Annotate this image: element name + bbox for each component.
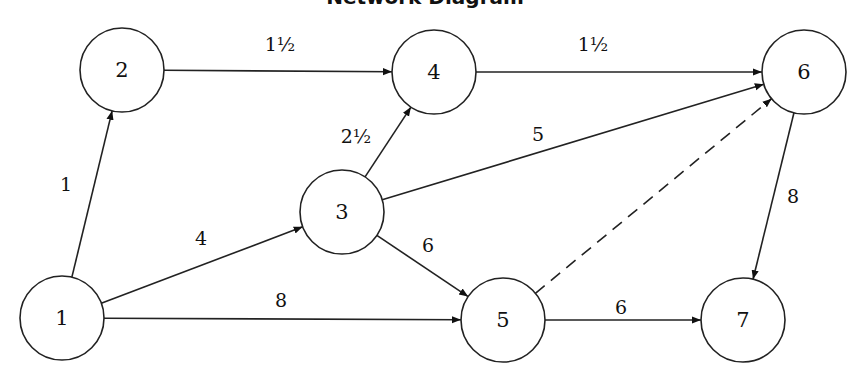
node-label: 5 [496,308,509,332]
node-1: 1 [20,276,104,360]
edge-2-4 [164,70,392,71]
edge-label-3-4: 2½ [341,125,372,147]
network-diagram: Network Diagram 1234567 1481½2½561½68 [0,0,851,374]
edge-label-3-5: 6 [422,234,434,256]
node-label: 7 [736,308,749,332]
edge-label-3-6: 5 [532,123,544,145]
edge-label-6-7: 8 [787,185,799,207]
arrow-line [104,318,461,320]
edge-1-2 [72,111,112,277]
node-6: 6 [762,30,846,114]
edge-label-1-2: 1 [60,173,72,195]
edge-label-1-3: 4 [195,227,207,249]
node-label: 1 [55,306,68,330]
edge-label-1-5: 8 [275,289,287,311]
edge-5-6 [535,99,771,294]
node-4: 4 [392,30,476,114]
edge-3-4 [365,107,411,177]
nodes-layer: 1234567 [20,28,846,362]
arrow-line [535,99,771,294]
node-5: 5 [461,278,545,362]
edge-label-2-4: 1½ [265,33,296,55]
edge-label-5-7: 6 [615,296,627,318]
node-7: 7 [701,278,785,362]
node-label: 3 [335,200,348,224]
edge-1-5 [104,318,461,320]
node-3: 3 [300,170,384,254]
arrow-line [72,111,112,277]
node-label: 4 [427,60,440,84]
edge-label-4-6: 1½ [578,33,609,55]
node-label: 2 [115,58,128,82]
arrow-line [365,107,411,177]
arrow-line [164,70,392,71]
node-label: 6 [797,60,810,84]
diagram-title: Network Diagram [326,0,524,9]
node-2: 2 [80,28,164,112]
